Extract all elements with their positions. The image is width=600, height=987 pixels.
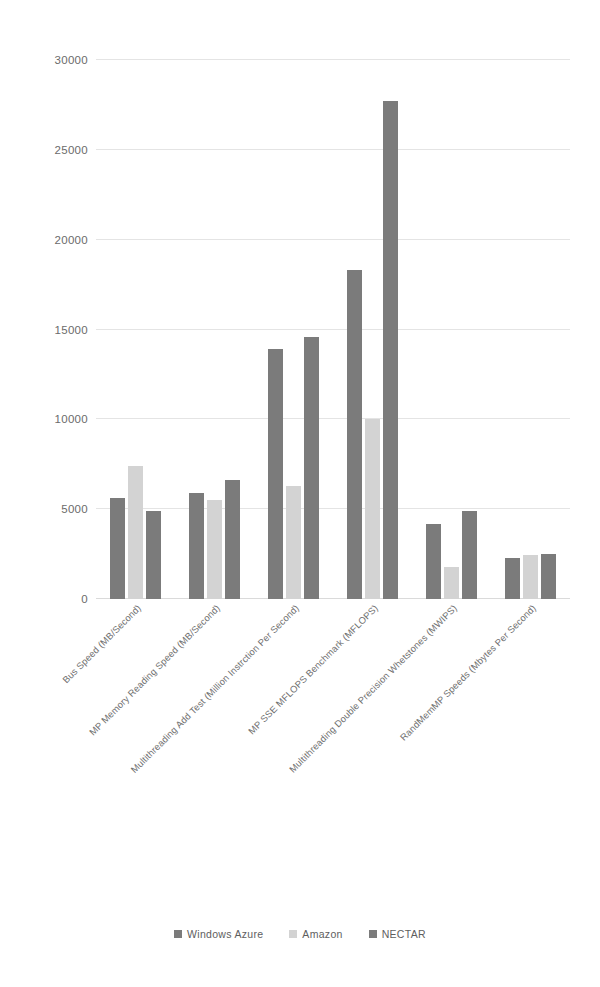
- bar-group: [491, 60, 570, 599]
- chart-legend: Windows AzureAmazonNECTAR: [0, 928, 600, 940]
- bar[interactable]: [286, 486, 301, 599]
- bar[interactable]: [462, 511, 477, 599]
- legend-item[interactable]: NECTAR: [369, 928, 426, 940]
- plot-area: [96, 60, 570, 599]
- legend-label: NECTAR: [382, 928, 426, 940]
- legend-swatch-icon: [289, 930, 297, 938]
- y-axis-tick-label: 15000: [10, 324, 88, 336]
- x-axis-category-labels: Bus Speed (MB/Second)MP Memory Reading S…: [96, 599, 570, 899]
- x-axis-tick-label: MP Memory Reading Speed (MB/Second): [31, 603, 222, 794]
- y-axis-tick-label: 20000: [10, 234, 88, 246]
- bar-group: [175, 60, 254, 599]
- legend-swatch-icon: [369, 930, 377, 938]
- y-axis-tick-label: 25000: [10, 144, 88, 156]
- bar[interactable]: [541, 554, 556, 599]
- bar[interactable]: [383, 101, 398, 599]
- y-axis: 050001000015000200002500030000: [0, 60, 88, 599]
- legend-item[interactable]: Amazon: [289, 928, 342, 940]
- bar-group: [254, 60, 333, 599]
- y-axis-tick-label: 5000: [10, 503, 88, 515]
- legend-label: Amazon: [302, 928, 342, 940]
- legend-label: Windows Azure: [187, 928, 263, 940]
- bar-chart: 050001000015000200002500030000 Bus Speed…: [0, 0, 600, 987]
- bar[interactable]: [146, 511, 161, 599]
- y-axis-tick-label: 10000: [10, 413, 88, 425]
- bar[interactable]: [523, 555, 538, 599]
- bar[interactable]: [189, 493, 204, 599]
- bar[interactable]: [505, 558, 520, 599]
- bar-group: [412, 60, 491, 599]
- bar[interactable]: [268, 349, 283, 599]
- y-axis-tick-label: 0: [10, 593, 88, 605]
- bar-group: [96, 60, 175, 599]
- x-axis-tick-label: Multithreading Add Test (Million Instrct…: [110, 603, 301, 794]
- bar[interactable]: [347, 270, 362, 599]
- bar[interactable]: [207, 500, 222, 599]
- bar[interactable]: [225, 480, 240, 599]
- bar[interactable]: [110, 498, 125, 599]
- bar[interactable]: [426, 524, 441, 599]
- bar[interactable]: [365, 419, 380, 599]
- bar[interactable]: [444, 567, 459, 599]
- bar-group: [333, 60, 412, 599]
- bar-groups: [96, 60, 570, 599]
- bar[interactable]: [128, 466, 143, 599]
- x-axis-tick-label: Multithreading Double Precision Whetston…: [268, 603, 459, 794]
- x-axis-tick-label: MP SSE MFLOPS Benchmark (MFLOPS): [189, 603, 380, 794]
- bar[interactable]: [304, 337, 319, 599]
- legend-item[interactable]: Windows Azure: [174, 928, 263, 940]
- y-axis-tick-label: 30000: [10, 54, 88, 66]
- legend-swatch-icon: [174, 930, 182, 938]
- x-axis-tick-label: RandMemMP Speeds (Mbytes Per Second): [347, 603, 538, 794]
